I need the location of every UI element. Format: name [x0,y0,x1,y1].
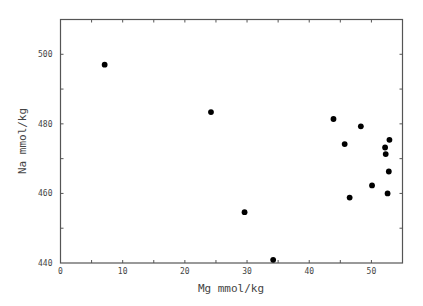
y-tick-label: 500 [38,50,53,59]
data-point [369,183,375,189]
data-point [358,123,364,129]
x-tick-label: 10 [118,267,128,276]
data-point [385,191,391,197]
plot-frame [61,20,403,264]
y-tick-label: 440 [38,259,53,268]
data-point [242,209,248,215]
data-points [102,62,393,263]
y-axis-label: Na mmol/kg [16,108,29,174]
axis-ticks [61,20,403,264]
data-point [382,145,388,151]
x-tick-label: 0 [58,267,63,276]
x-tick-label: 50 [367,267,377,276]
data-point [383,151,389,157]
data-point [102,62,108,68]
data-point [342,141,348,147]
scatter-chart: 01020304050 440460480500 Mg mmol/kg Na m… [0,0,423,306]
data-point [387,137,393,143]
y-tick-label: 480 [38,120,53,129]
y-tick-labels: 440460480500 [38,50,53,268]
x-tick-label: 20 [180,267,190,276]
data-point [347,195,353,201]
x-tick-label: 30 [242,267,252,276]
data-point [270,257,276,263]
data-point [386,169,392,175]
x-tick-label: 40 [304,267,314,276]
data-point [208,109,214,115]
y-tick-label: 460 [38,189,53,198]
x-axis-label: Mg mmol/kg [198,282,264,295]
x-tick-labels: 01020304050 [58,267,376,276]
data-point [331,116,337,122]
